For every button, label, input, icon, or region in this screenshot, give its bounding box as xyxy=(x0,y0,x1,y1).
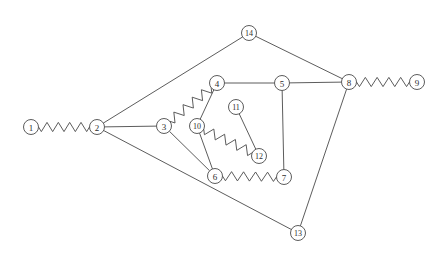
node-7[interactable]: 7 xyxy=(277,170,292,185)
node-11[interactable]: 11 xyxy=(229,100,244,115)
node-circle-14[interactable] xyxy=(242,26,257,41)
node-circle-13[interactable] xyxy=(291,226,306,241)
node-circle-3[interactable] xyxy=(157,119,172,134)
edge-8-13 xyxy=(300,89,346,226)
node-circle-9[interactable] xyxy=(410,75,425,90)
node-13[interactable]: 13 xyxy=(291,226,306,241)
graph-diagram-canvas: 1234567891011121314 xyxy=(0,0,445,256)
node-3[interactable]: 3 xyxy=(157,119,172,134)
node-circle-10[interactable] xyxy=(190,119,205,134)
edge-10-12-zigzag xyxy=(204,129,253,156)
node-14[interactable]: 14 xyxy=(242,26,257,41)
node-circle-1[interactable] xyxy=(24,120,39,135)
edge-10-6 xyxy=(200,133,213,169)
edge-1-2-zigzag xyxy=(39,122,90,131)
node-circle-5[interactable] xyxy=(275,76,290,91)
edge-3-6 xyxy=(169,131,209,171)
edge-11-12 xyxy=(239,114,256,149)
node-circle-2[interactable] xyxy=(90,120,105,135)
edge-6-7-zigzag xyxy=(223,172,277,182)
edge-2-3 xyxy=(105,126,157,127)
nodes-layer: 1234567891011121314 xyxy=(24,26,425,241)
edge-8-9-zigzag xyxy=(357,77,410,86)
node-12[interactable]: 12 xyxy=(252,149,267,164)
edge-5-7 xyxy=(282,91,284,170)
node-circle-12[interactable] xyxy=(252,149,267,164)
node-5[interactable]: 5 xyxy=(275,76,290,91)
edge-8-14 xyxy=(256,36,343,78)
node-8[interactable]: 8 xyxy=(342,75,357,90)
node-circle-11[interactable] xyxy=(229,100,244,115)
graph-svg: 1234567891011121314 xyxy=(0,0,445,256)
node-4[interactable]: 4 xyxy=(210,76,225,91)
edge-5-8 xyxy=(290,82,342,83)
edge-3-4-zigzag xyxy=(170,88,212,123)
edge-2-13 xyxy=(104,131,292,230)
node-circle-6[interactable] xyxy=(208,169,223,184)
node-circle-4[interactable] xyxy=(210,76,225,91)
node-circle-8[interactable] xyxy=(342,75,357,90)
node-1[interactable]: 1 xyxy=(24,120,39,135)
node-9[interactable]: 9 xyxy=(410,75,425,90)
node-6[interactable]: 6 xyxy=(208,169,223,184)
node-2[interactable]: 2 xyxy=(90,120,105,135)
node-circle-7[interactable] xyxy=(277,170,292,185)
node-10[interactable]: 10 xyxy=(190,119,205,134)
